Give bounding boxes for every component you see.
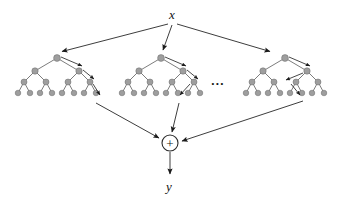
tree-1-leaf-3 <box>49 90 55 96</box>
tree-3-leaf-0 <box>243 90 249 96</box>
tree-1-node-l1-1 <box>76 68 82 74</box>
tree-3-node-l2-1 <box>271 79 277 85</box>
arrow-tree-3-to-sum <box>182 101 303 141</box>
tree-3-leaf-4 <box>287 90 293 96</box>
tree-2-leaf-6 <box>185 90 191 96</box>
tree-3-leaf-2 <box>265 90 271 96</box>
arrow-x-to-tree-2 <box>163 25 172 50</box>
tree-2-leaf-3 <box>153 90 159 96</box>
tree-2-path-arrow-2 <box>187 70 198 79</box>
combiner-node: + <box>162 135 178 151</box>
arrow-x-to-tree-1 <box>62 24 168 52</box>
tree-2-node-l1-1 <box>180 68 186 74</box>
tree-2-leaf-0 <box>119 90 125 96</box>
ellipsis-label: ... <box>211 73 224 88</box>
tree-1 <box>15 55 100 96</box>
output-arrow-group <box>96 101 303 141</box>
tree-2-edges <box>122 58 200 93</box>
tree-3-decision-path <box>286 57 310 95</box>
tree-1-node-l2-2 <box>65 79 71 85</box>
tree-1-node-l2-3 <box>87 79 93 85</box>
tree-2-path-arrow-1 <box>165 57 186 66</box>
tree-3-leaf-6 <box>309 90 315 96</box>
tree-2 <box>119 55 203 96</box>
tree-3-node-l2-0 <box>249 79 255 85</box>
tree-3-node-l1-0 <box>260 68 266 74</box>
tree-2-node-l1-0 <box>136 68 142 74</box>
arrow-tree-2-to-sum <box>172 103 179 132</box>
tree-2-node-l2-0 <box>125 79 131 85</box>
arrow-tree-1-to-sum <box>96 103 159 138</box>
tree-3-path-arrow-2 <box>286 73 303 80</box>
tree-1-path-arrow-1 <box>61 57 82 66</box>
tree-3-path-arrow-1 <box>289 57 310 66</box>
tree-2-leaf-7 <box>197 90 203 96</box>
tree-2-node-l2-3 <box>191 79 197 85</box>
tree-1-leaf-6 <box>81 90 87 96</box>
tree-3-node-root <box>282 55 289 62</box>
combiner-plus-glyph: + <box>166 136 173 151</box>
tree-1-leaf-7 <box>93 90 99 96</box>
tree-3-leaf-3 <box>277 90 283 96</box>
ensemble-diagram: x <box>0 0 339 200</box>
tree-2-decision-path <box>165 57 198 95</box>
tree-2-node-root <box>158 55 165 62</box>
tree-3-leaf-1 <box>255 90 261 96</box>
tree-1-leaf-1 <box>27 90 33 96</box>
tree-1-edges <box>18 58 96 93</box>
tree-3 <box>243 55 327 96</box>
tree-3-node-l2-2 <box>293 79 299 85</box>
tree-1-node-l1-0 <box>32 68 38 74</box>
input-label-x: x <box>168 7 175 22</box>
tree-2-leaf-2 <box>141 90 147 96</box>
arrow-x-to-tree-3 <box>177 24 270 52</box>
tree-1-leaf-4 <box>59 90 65 96</box>
tree-1-leaf-5 <box>71 90 77 96</box>
tree-2-leaf-1 <box>131 90 137 96</box>
tree-3-node-l1-1 <box>304 68 310 74</box>
tree-3-node-l2-3 <box>315 79 321 85</box>
tree-1-node-root <box>54 55 61 62</box>
tree-3-edges <box>246 58 324 93</box>
tree-1-node-l2-0 <box>21 79 27 85</box>
tree-2-leaf-4 <box>163 90 169 96</box>
tree-1-path-arrow-2 <box>83 70 94 79</box>
tree-1-leaf-2 <box>37 90 43 96</box>
ensemble-diagram-canvas: x <box>0 0 339 200</box>
tree-1-leaf-0 <box>15 90 21 96</box>
tree-2-node-l2-2 <box>169 79 175 85</box>
tree-1-node-l2-1 <box>43 79 49 85</box>
output-label-y: y <box>164 179 172 194</box>
tree-3-leaf-7 <box>321 90 327 96</box>
tree-2-node-l2-1 <box>147 79 153 85</box>
input-arrow-group <box>62 24 270 52</box>
